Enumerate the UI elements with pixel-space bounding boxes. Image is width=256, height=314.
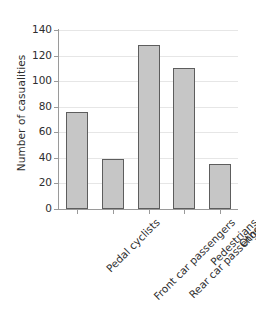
bar-chart: Number of casualities 020406080100120140… xyxy=(0,0,256,314)
bar xyxy=(66,112,88,209)
y-tick-mark xyxy=(54,158,58,159)
y-tick-mark xyxy=(54,56,58,57)
y-tick-label: 120 xyxy=(6,50,52,61)
bar xyxy=(209,164,231,209)
y-tick-mark xyxy=(54,81,58,82)
bar xyxy=(138,45,160,209)
y-tick-label-wrap: 0 xyxy=(0,203,52,214)
y-tick-mark xyxy=(54,209,58,210)
x-tick-label: Pedal cyclists xyxy=(104,216,162,274)
x-tick-mark xyxy=(184,210,185,214)
y-tick-label-wrap: 20 xyxy=(0,177,52,188)
y-tick-mark xyxy=(54,183,58,184)
x-tick-mark xyxy=(113,210,114,214)
plot-area xyxy=(59,30,238,209)
y-tick-mark xyxy=(54,107,58,108)
y-tick-label-wrap: 40 xyxy=(0,152,52,163)
y-tick-label: 60 xyxy=(6,126,52,137)
x-tick-mark xyxy=(149,210,150,214)
y-tick-label-wrap: 100 xyxy=(0,75,52,86)
y-tick-label-wrap: 60 xyxy=(0,126,52,137)
y-tick-label-wrap: 120 xyxy=(0,50,52,61)
x-tick-mark xyxy=(220,210,221,214)
y-tick-label: 20 xyxy=(6,177,52,188)
x-tick-mark xyxy=(77,210,78,214)
y-tick-label: 80 xyxy=(6,101,52,112)
bar xyxy=(102,159,124,209)
y-tick-label-wrap: 140 xyxy=(0,24,52,35)
y-tick-mark xyxy=(54,132,58,133)
y-tick-label: 0 xyxy=(6,203,52,214)
y-tick-label: 100 xyxy=(6,75,52,86)
y-tick-label: 140 xyxy=(6,24,52,35)
y-tick-mark xyxy=(54,30,58,31)
bar xyxy=(173,68,195,209)
y-tick-label: 40 xyxy=(6,152,52,163)
y-tick-label-wrap: 80 xyxy=(0,101,52,112)
